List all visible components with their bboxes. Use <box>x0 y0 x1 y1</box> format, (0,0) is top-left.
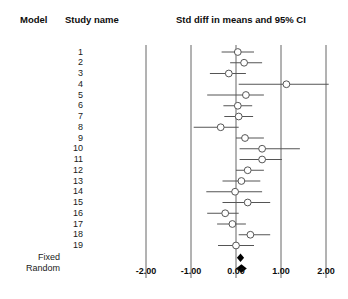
study-name-label: 18 <box>57 229 83 239</box>
summary-diamond <box>237 253 244 262</box>
study-name-label: 17 <box>57 219 83 229</box>
study-effect-marker <box>244 199 251 206</box>
study-name-label: 1 <box>57 47 83 57</box>
study-name-label: 13 <box>57 176 83 186</box>
study-name-label: 15 <box>57 197 83 207</box>
study-name-label: 2 <box>57 57 83 67</box>
study-name-label: 10 <box>57 143 83 153</box>
study-name-label: 6 <box>57 100 83 110</box>
study-effect-marker <box>241 59 248 66</box>
study-name-label: 14 <box>57 186 83 196</box>
study-effect-marker <box>247 231 254 238</box>
axis-tick-label: 2.00 <box>306 266 346 276</box>
study-effect-marker <box>243 92 250 99</box>
study-effect-marker <box>222 210 229 217</box>
study-name-label: 11 <box>57 154 83 164</box>
study-effect-marker <box>259 145 266 152</box>
study-effect-marker <box>238 178 245 185</box>
axis-tick-label: 0.00 <box>216 266 256 276</box>
study-effect-marker <box>217 124 224 131</box>
study-name-label: 16 <box>57 208 83 218</box>
study-name-label: 3 <box>57 68 83 78</box>
model-label-random: Random <box>14 263 60 273</box>
study-effect-marker <box>234 102 241 109</box>
study-effect-marker <box>283 81 290 88</box>
forest-plot: Model Study name Std diff in means and 9… <box>0 0 348 299</box>
study-effect-marker <box>225 70 232 77</box>
study-name-label: 8 <box>57 122 83 132</box>
model-label-fixed: Fixed <box>14 252 60 262</box>
study-name-label: 7 <box>57 111 83 121</box>
axis-tick-label: 1.00 <box>261 266 301 276</box>
axis-tick-label: -2.00 <box>126 266 166 276</box>
study-effect-marker <box>234 49 241 56</box>
study-effect-marker <box>233 242 240 249</box>
study-effect-marker <box>232 188 239 195</box>
study-name-label: 9 <box>57 133 83 143</box>
study-name-label: 19 <box>57 240 83 250</box>
study-effect-marker <box>259 156 266 163</box>
study-effect-marker <box>235 113 242 120</box>
study-effect-marker <box>244 167 251 174</box>
study-name-label: 4 <box>57 79 83 89</box>
axis-tick-label: -1.00 <box>171 266 211 276</box>
study-name-label: 12 <box>57 165 83 175</box>
study-effect-marker <box>229 221 236 228</box>
study-name-label: 5 <box>57 90 83 100</box>
study-effect-marker <box>242 135 249 142</box>
